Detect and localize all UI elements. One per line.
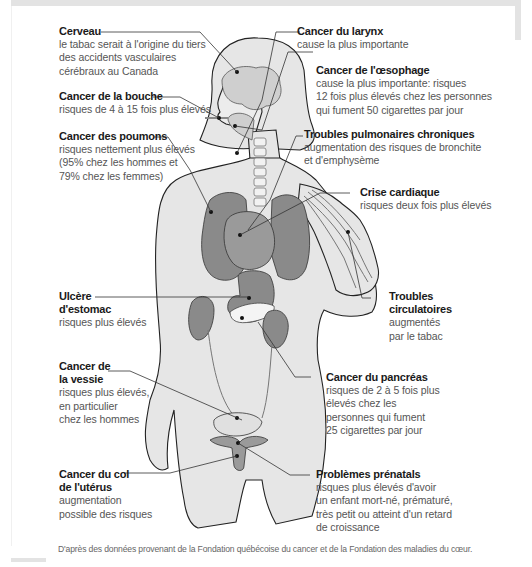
label-poumons: Cancer des poumons risques nettement plu… <box>59 130 195 183</box>
label-title: Troubles pulmonaires chroniques <box>304 128 481 141</box>
label-title: Cancer de la bouche <box>59 90 211 103</box>
label-desc: le tabac serait à l'origine du tiers des… <box>59 38 206 78</box>
label-desc: risques deux fois plus élevés <box>360 199 491 212</box>
label-ulcere: Ulcère d'estomac risques plus élevés <box>59 290 146 330</box>
label-title: Cancer du pancréas <box>326 371 440 384</box>
heart <box>224 212 275 270</box>
label-title: Crise cardiaque <box>360 186 491 199</box>
label-title: Cancer du col de l'utérus <box>59 468 152 494</box>
lung-right <box>270 195 310 280</box>
label-desc: augmentation des risques de bronchite et… <box>304 141 481 167</box>
label-oesophage: Cancer de l'œsophage cause la plus impor… <box>316 64 492 117</box>
label-title: Cerveau <box>59 25 206 38</box>
label-title: Problèmes prénatals <box>316 468 453 481</box>
label-cardiaque: Crise cardiaque risques deux fois plus é… <box>360 186 491 212</box>
label-desc: augmentation possible des risques <box>59 494 152 520</box>
label-desc: risques de 4 à 15 fois plus élevés <box>59 103 211 116</box>
label-uterus: Cancer du col de l'utérus augmentation p… <box>59 468 152 521</box>
label-cerveau: Cerveau le tabac serait à l'origine du t… <box>59 25 206 78</box>
label-title: Troubles circulatoires <box>389 290 452 316</box>
label-title: Cancer de l'œsophage <box>316 64 492 77</box>
label-pulmonaires: Troubles pulmonaires chroniques augmenta… <box>304 128 481 168</box>
label-desc: risques plus élevés <box>59 316 146 329</box>
label-circulatoires: Troubles circulatoires augmentés par le … <box>389 290 452 343</box>
label-desc: risques plus élevés d'avoir un enfant mo… <box>316 481 453 534</box>
label-desc: cause la plus importante: risques 12 foi… <box>316 77 492 117</box>
label-desc: risques nettement plus élevés (95% chez … <box>59 143 195 183</box>
source-caption: D'après des données provenant de la Fond… <box>58 544 472 554</box>
label-title: Ulcère d'estomac <box>59 290 146 316</box>
label-vessie: Cancer de la vessie risques plus élevés,… <box>59 360 149 426</box>
trachea <box>254 138 266 206</box>
label-larynx: Cancer du larynx cause la plus important… <box>297 25 408 51</box>
label-pancreas: Cancer du pancréas risques de 2 à 5 fois… <box>326 371 440 437</box>
label-title: Cancer des poumons <box>59 130 195 143</box>
label-desc: risques de 2 à 5 fois plus élevés chez l… <box>326 384 440 437</box>
label-prenatals: Problèmes prénatals risques plus élevés … <box>316 468 453 534</box>
label-title: Cancer de la vessie <box>59 360 149 386</box>
label-title: Cancer du larynx <box>297 25 408 38</box>
label-desc: risques plus élevés, en particulier chez… <box>59 386 149 426</box>
label-desc: cause la plus importante <box>297 38 408 51</box>
label-desc: augmentés par le tabac <box>389 316 452 342</box>
label-bouche: Cancer de la bouche risques de 4 à 15 fo… <box>59 90 211 116</box>
